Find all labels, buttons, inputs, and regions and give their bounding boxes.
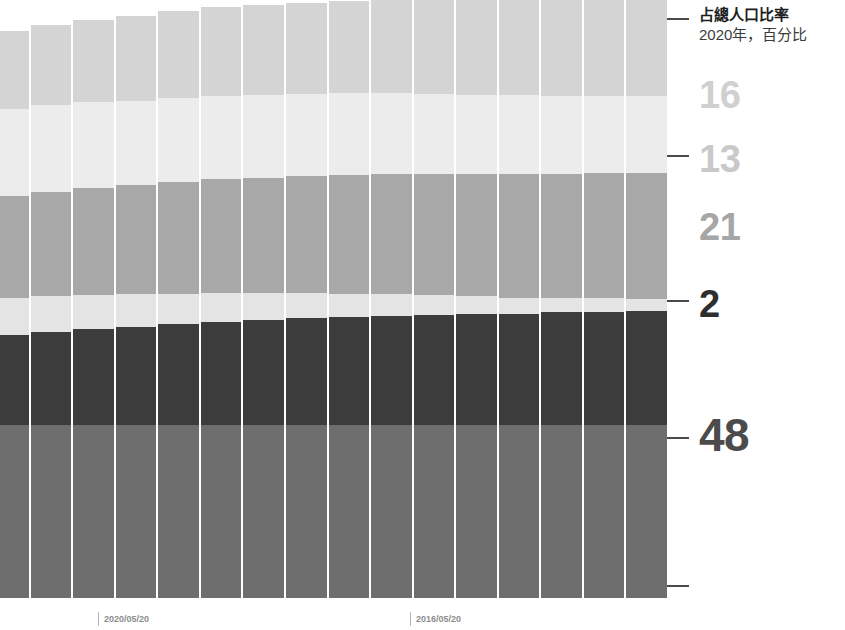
bar-segment bbox=[329, 317, 370, 425]
bar-segment bbox=[73, 329, 114, 425]
bar-segment bbox=[584, 173, 625, 298]
bar-segment bbox=[414, 425, 455, 598]
bar-segment bbox=[329, 1, 370, 93]
x-axis-label: 2020/05/20 bbox=[98, 612, 149, 626]
bar-segment bbox=[243, 95, 284, 178]
bar-segment bbox=[0, 109, 29, 196]
axis-value-label: 48 bbox=[699, 412, 749, 458]
bar-segment bbox=[456, 174, 497, 296]
bar-segment bbox=[0, 298, 29, 335]
x-axis-labels: 2020/05/202016/05/20 bbox=[0, 612, 667, 630]
bar-segment bbox=[499, 0, 540, 95]
bar-segment bbox=[243, 293, 284, 320]
bar-column bbox=[73, 0, 116, 598]
bar-segment bbox=[0, 425, 29, 598]
bar-segment bbox=[626, 425, 667, 598]
bar-segment bbox=[73, 295, 114, 329]
bar-segment bbox=[414, 174, 455, 295]
bar-segment bbox=[73, 20, 114, 103]
bar-column bbox=[116, 0, 159, 598]
bar-segment bbox=[499, 425, 540, 598]
bar-segment bbox=[329, 294, 370, 317]
bar-segment bbox=[371, 425, 412, 598]
bar-segment bbox=[158, 425, 199, 598]
bar-segment bbox=[584, 0, 625, 96]
bar-segment bbox=[584, 312, 625, 425]
bar-segment bbox=[371, 294, 412, 316]
bar-segment bbox=[414, 315, 455, 425]
bar-segment bbox=[31, 192, 72, 296]
bar-column bbox=[329, 0, 372, 598]
bar-segment bbox=[626, 299, 667, 311]
bar-segment bbox=[116, 185, 157, 294]
bar-segment bbox=[584, 96, 625, 174]
bar-top-spacer bbox=[116, 0, 157, 16]
axis-tick bbox=[667, 155, 689, 157]
bar-segment bbox=[243, 178, 284, 293]
bar-segment bbox=[541, 312, 582, 424]
bar-segment bbox=[31, 332, 72, 425]
bar-column bbox=[201, 0, 244, 598]
axis-value-label: 21 bbox=[699, 208, 740, 246]
value-axis: 161321248 bbox=[667, 0, 845, 598]
bar-segment bbox=[456, 0, 497, 95]
axis-tick bbox=[667, 585, 689, 587]
bar-segment bbox=[116, 327, 157, 425]
bar-segment bbox=[116, 101, 157, 186]
bar-segment bbox=[371, 93, 412, 174]
bar-segment bbox=[499, 174, 540, 297]
bar-segment bbox=[31, 296, 72, 332]
bar-segment bbox=[116, 425, 157, 598]
bar-segment bbox=[201, 322, 242, 425]
bar-segment bbox=[626, 0, 667, 96]
bar-column bbox=[243, 0, 286, 598]
bar-top-spacer bbox=[201, 0, 242, 7]
bar-segment bbox=[201, 96, 242, 180]
bar-column bbox=[626, 0, 667, 598]
stacked-area-chart: 161321248 占總人口比率 2020年，百分比 2020/05/20201… bbox=[0, 0, 845, 630]
bar-column bbox=[371, 0, 414, 598]
bar-top-spacer bbox=[73, 0, 114, 20]
bar-segment bbox=[286, 3, 327, 94]
bar-column bbox=[158, 0, 201, 598]
bar-segment bbox=[329, 175, 370, 294]
bar-segment bbox=[201, 293, 242, 322]
bar-column bbox=[286, 0, 329, 598]
bar-segment bbox=[201, 179, 242, 293]
axis-tick bbox=[667, 18, 689, 20]
bar-segment bbox=[371, 174, 412, 294]
plot-area bbox=[0, 0, 667, 598]
bar-segment bbox=[158, 98, 199, 182]
bar-column bbox=[584, 0, 627, 598]
bar-segment bbox=[73, 425, 114, 598]
bar-segment bbox=[116, 16, 157, 101]
bar-segment bbox=[626, 311, 667, 425]
bar-series-container bbox=[0, 0, 667, 598]
bar-segment bbox=[456, 95, 497, 174]
bar-segment bbox=[158, 11, 199, 98]
bar-segment bbox=[286, 94, 327, 176]
bar-segment bbox=[31, 25, 72, 105]
bar-segment bbox=[158, 182, 199, 293]
bar-segment bbox=[541, 0, 582, 96]
bar-segment bbox=[0, 31, 29, 109]
bar-segment bbox=[626, 96, 667, 174]
page-title: 占總人口比率 bbox=[699, 6, 845, 25]
bar-segment bbox=[31, 425, 72, 598]
bar-segment bbox=[116, 294, 157, 326]
bar-segment bbox=[499, 298, 540, 314]
chart-subtitle: 2020年，百分比 bbox=[699, 25, 845, 45]
bar-segment bbox=[541, 425, 582, 598]
bar-column bbox=[414, 0, 457, 598]
bar-segment bbox=[201, 7, 242, 96]
bar-segment bbox=[0, 335, 29, 425]
bar-segment bbox=[158, 324, 199, 424]
bar-segment bbox=[456, 425, 497, 598]
bar-segment bbox=[456, 314, 497, 425]
bar-segment bbox=[243, 320, 284, 425]
axis-value-label: 13 bbox=[699, 140, 740, 178]
bar-segment bbox=[329, 425, 370, 598]
bar-segment bbox=[371, 316, 412, 425]
bar-segment bbox=[371, 0, 412, 93]
bar-column bbox=[0, 0, 31, 598]
